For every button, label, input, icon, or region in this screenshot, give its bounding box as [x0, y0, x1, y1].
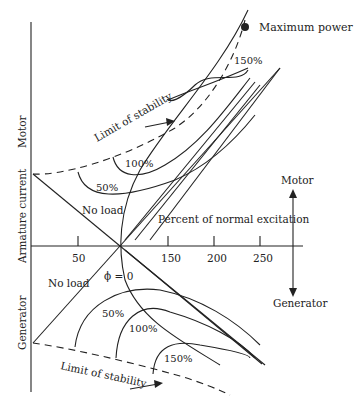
no-load-top-label: No load — [82, 204, 124, 216]
outer-line-bottom — [125, 250, 262, 364]
motor-vertical-label: Motor — [16, 114, 28, 148]
bottom-150-label: 150% — [164, 353, 193, 364]
bottom-50-label: 50% — [102, 308, 124, 319]
tick-label-150: 150 — [161, 252, 181, 264]
tick-label-200: 200 — [207, 252, 227, 264]
top-100-label: 100% — [125, 158, 154, 169]
tick-label-50: 50 — [72, 252, 85, 264]
tick-label-250: 250 — [253, 252, 273, 264]
limit-of-stability-top — [33, 20, 245, 174]
limit-of-stability-bottom-label: Limit of stability — [60, 359, 148, 389]
generator-vertical-label: Generator — [16, 295, 28, 350]
top-50-label: 50% — [96, 182, 118, 193]
limit-bottom-arrow-icon — [154, 380, 163, 388]
motor-right-label: Motor — [281, 174, 315, 186]
v-curve-diagram: Maximum power 150% 100% 50% Limit of sta… — [0, 0, 356, 408]
x-axis-label: Percent of normal excitation — [158, 213, 310, 225]
phi-zero-label: ϕ = 0 — [104, 270, 133, 282]
no-load-bottom-label: No load — [48, 277, 90, 289]
top-150-label: 150% — [234, 55, 263, 66]
generator-right-label: Generator — [273, 297, 328, 309]
limit-top-pointer — [145, 122, 170, 127]
max-power-label: Maximum power — [259, 21, 354, 34]
max-power-point-icon — [241, 23, 249, 31]
generator-arrow-down-icon — [289, 288, 297, 297]
bottom-100-label: 100% — [129, 323, 158, 334]
armature-current-label: Armature current — [16, 168, 28, 264]
motor-arrow-up-icon — [289, 189, 297, 198]
